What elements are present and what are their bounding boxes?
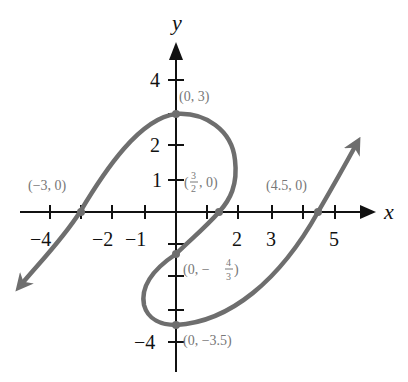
chart-canvas: y x −4 −2 −1 2 3 5 4 2 1 −4 (0, 3) (−3, … bbox=[0, 0, 408, 382]
x-axis-label: x bbox=[383, 199, 394, 224]
x-tick-label: −1 bbox=[125, 228, 146, 250]
y-axis-label: y bbox=[170, 10, 182, 35]
intercept-points bbox=[77, 110, 322, 329]
function-curve bbox=[20, 114, 357, 325]
svg-text:2: 2 bbox=[191, 183, 196, 194]
annotation-3-2-0: ( 3 2 , 0) bbox=[184, 170, 218, 194]
svg-text:(0, −: (0, − bbox=[183, 262, 210, 278]
svg-text:4: 4 bbox=[226, 257, 231, 268]
y-tick-label: −4 bbox=[134, 331, 155, 353]
annotation-neg3-0: (−3, 0) bbox=[28, 178, 67, 194]
annotation-4.5-0: (4.5, 0) bbox=[266, 178, 307, 194]
y-tick-label: 4 bbox=[150, 69, 160, 91]
svg-text:): ) bbox=[234, 262, 239, 278]
x-tick-label: 2 bbox=[232, 228, 242, 250]
svg-text:3: 3 bbox=[191, 170, 196, 181]
x-tick-label: 3 bbox=[266, 228, 276, 250]
annotation-0-neg3.5: (0, −3.5) bbox=[183, 333, 232, 349]
x-tick-label: 5 bbox=[329, 228, 339, 250]
annotation-0-neg4-3: (0, − 4 3 ) bbox=[183, 257, 239, 282]
x-tick-label: −4 bbox=[30, 228, 51, 250]
svg-text:(: ( bbox=[184, 175, 189, 191]
y-tick-label: 2 bbox=[150, 134, 160, 156]
svg-text:, 0): , 0) bbox=[199, 175, 218, 191]
x-tick-label: −2 bbox=[92, 228, 113, 250]
y-tick-label: 1 bbox=[152, 169, 162, 191]
annotation-0-3: (0, 3) bbox=[179, 89, 210, 105]
y-axis-arrow-icon bbox=[169, 42, 183, 60]
svg-text:3: 3 bbox=[226, 271, 231, 282]
x-axis-arrow-icon bbox=[360, 205, 376, 219]
